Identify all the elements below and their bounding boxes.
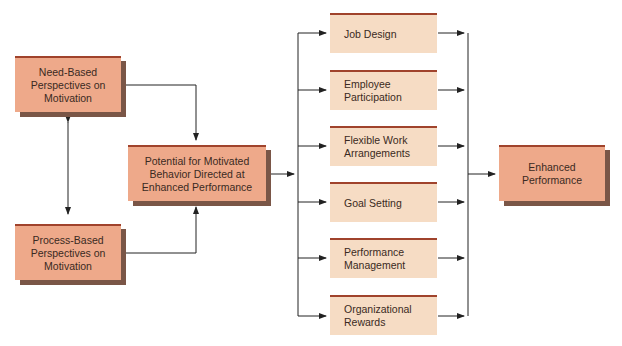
method-label: Organizational Rewards [344,303,424,329]
method-box-flexible-work: Flexible Work Arrangements [330,126,437,166]
method-label: Goal Setting [344,197,402,210]
method-box-employee-participation: Employee Participation [330,70,437,110]
method-box-job-design: Job Design [330,13,437,53]
motivated-behavior-box: Potential for Motivated Behavior Directe… [128,145,266,201]
method-label: Employee Participation [344,78,424,104]
method-box-goal-setting: Goal Setting [330,182,437,222]
process-based-label: Process-Based Perspectives on Motivation [15,234,121,273]
method-label: Job Design [344,28,397,41]
need-based-label: Need-Based Perspectives on Motivation [15,66,121,105]
enhanced-performance-label: Enhanced Performance [512,161,592,187]
method-box-performance-management: Performance Management [330,238,437,278]
method-label: Flexible Work Arrangements [344,134,424,160]
motivated-behavior-label: Potential for Motivated Behavior Directe… [128,155,266,194]
enhanced-performance-box: Enhanced Performance [499,145,605,201]
method-label: Performance Management [344,246,424,272]
method-box-organizational-rewards: Organizational Rewards [330,295,437,335]
need-based-perspectives-box: Need-Based Perspectives on Motivation [15,56,121,112]
process-based-perspectives-box: Process-Based Perspectives on Motivation [15,224,121,280]
